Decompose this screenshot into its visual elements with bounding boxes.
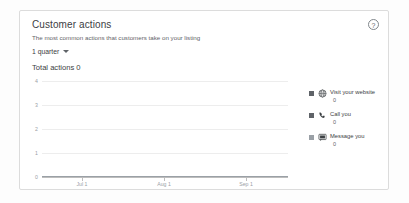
legend-label-call: Call you	[330, 111, 351, 118]
legend-item-visit-your-website[interactable]: Visit your website 0	[309, 89, 387, 104]
legend-value-message: 0	[333, 141, 364, 148]
y-axis-tick-2: 2	[24, 126, 38, 132]
phone-icon	[318, 111, 327, 120]
date-range-label: 1 quarter	[32, 48, 59, 55]
screenshot-root: Customer actions The most common actions…	[0, 0, 409, 203]
page-title: Customer actions	[32, 19, 111, 30]
legend-swatch-message	[309, 135, 314, 140]
chevron-down-icon	[63, 50, 69, 53]
gridline-2	[42, 129, 288, 130]
actions-line-chart: 4 3 2 1 0 Jul 1 Aug 1 Sep 1	[24, 77, 292, 185]
series-line-zero	[42, 176, 288, 177]
gridline-4	[42, 81, 288, 82]
legend-value-website: 0	[333, 97, 375, 104]
y-axis-tick-0: 0	[24, 174, 38, 180]
legend-label-website: Visit your website	[330, 89, 375, 96]
help-circle-icon[interactable]: ?	[368, 19, 379, 30]
y-axis-tick-4: 4	[24, 78, 38, 84]
chart-legend: Visit your website 0 Call you 0	[309, 89, 387, 155]
customer-actions-card: Customer actions The most common actions…	[19, 10, 389, 190]
y-axis-tick-3: 3	[24, 102, 38, 108]
x-axis-label-jul: Jul 1	[77, 181, 88, 187]
legend-label-message: Message you	[330, 133, 364, 140]
x-axis-line	[42, 177, 288, 178]
globe-icon	[318, 89, 327, 98]
message-icon	[318, 133, 327, 142]
card-subtitle: The most common actions that customers t…	[32, 34, 200, 41]
x-axis-label-sep: Sep 1	[239, 181, 253, 187]
total-actions-label: Total actions 0	[32, 63, 81, 72]
y-axis-tick-1: 1	[24, 150, 38, 156]
gridline-3	[42, 105, 288, 106]
legend-item-message-you[interactable]: Message you 0	[309, 133, 387, 148]
legend-item-call-you[interactable]: Call you 0	[309, 111, 387, 126]
legend-swatch-call	[309, 113, 314, 118]
gridline-1	[42, 153, 288, 154]
date-range-dropdown[interactable]: 1 quarter	[32, 48, 69, 55]
x-axis-label-aug: Aug 1	[157, 181, 171, 187]
legend-value-call: 0	[333, 119, 351, 126]
legend-swatch-website	[309, 91, 314, 96]
